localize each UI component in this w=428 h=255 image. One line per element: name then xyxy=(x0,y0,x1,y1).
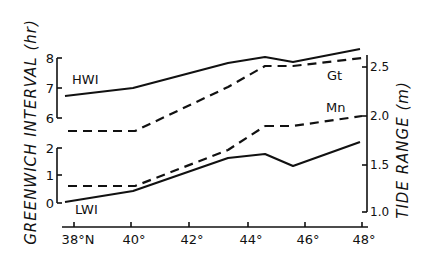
tick-label: 38°N xyxy=(62,232,95,247)
series-hwi xyxy=(65,49,360,96)
left-axis-ticks: 8 7 6 2 1 0 xyxy=(46,51,54,211)
tick-label: 2.5 xyxy=(370,60,389,74)
right-axis-ticks: 2.5 2.0 1.5 1.0 xyxy=(370,60,389,219)
label-gt: Gt xyxy=(327,68,342,83)
tick-label: 0 xyxy=(46,196,54,211)
tick-label: 42° xyxy=(180,232,203,247)
series-gt xyxy=(68,58,362,131)
label-mn: Mn xyxy=(326,100,345,115)
label-lwi: LWI xyxy=(75,202,98,217)
series-mn-lower xyxy=(68,126,265,186)
tick-label: 44° xyxy=(239,232,262,247)
axes xyxy=(57,55,368,227)
left-axis-title: GREENWICH INTERVAL (hr) xyxy=(22,19,40,245)
tick-label: 2.0 xyxy=(370,109,389,123)
tick-label: 6 xyxy=(46,111,54,126)
tick-label: 46° xyxy=(296,232,319,247)
tick-label: 1 xyxy=(46,168,54,183)
series-mn-upper xyxy=(265,116,362,126)
tide-chart: GREENWICH INTERVAL (hr) TIDE RANGE (m) 8… xyxy=(0,0,428,255)
right-axis-title: TIDE RANGE (m) xyxy=(394,81,412,218)
tick-label: 48° xyxy=(352,232,375,247)
tick-label: 7 xyxy=(46,81,54,96)
tick-label: 40° xyxy=(122,232,145,247)
x-axis-ticks: 38°N 40° 42° 44° 46° 48° xyxy=(62,232,376,247)
tick-label: 1.5 xyxy=(370,158,389,172)
series-lwi xyxy=(65,142,360,202)
tick-label: 2 xyxy=(46,141,54,156)
tick-label: 1.0 xyxy=(370,205,389,219)
label-hwi: HWI xyxy=(72,72,98,87)
tick-label: 8 xyxy=(46,51,54,66)
